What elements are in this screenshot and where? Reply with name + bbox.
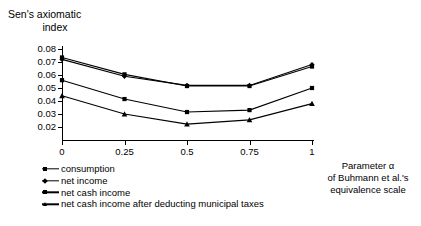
x-axis-caption-line2: of Buhmann et al.'s [316, 172, 420, 184]
x-axis-tick [312, 140, 313, 145]
y-axis-tick-label: 0.03 [38, 109, 57, 119]
data-point [310, 86, 314, 90]
y-axis-tick-label: 0.04 [38, 96, 57, 106]
data-point [247, 108, 251, 112]
legend-marker-icon [42, 187, 59, 199]
plot-area: 0.080.070.060.050.040.030.02 [62, 49, 312, 127]
legend: consumptionnet incomenet cash incomenet … [42, 163, 264, 210]
y-axis-tick-label: 0.07 [38, 57, 57, 67]
y-axis-tick-label: 0.08 [38, 44, 57, 54]
x-axis-tick [62, 140, 63, 145]
x-axis-caption: Parameter α of Buhmann et al.'s equivale… [316, 160, 420, 197]
data-point [185, 110, 189, 114]
data-point [59, 93, 65, 98]
x-axis-tick-label: 0 [59, 147, 64, 157]
x-axis-tick [187, 140, 188, 145]
x-axis-tick-label: 0.25 [115, 147, 134, 157]
legend-marker-icon [42, 163, 59, 175]
chart-figure: Sen's axiomatic index 0.080.070.060.050.… [0, 0, 421, 226]
legend-item: net cash income [42, 187, 264, 199]
legend-marker-icon [42, 198, 59, 210]
legend-item: net cash income after deducting municipa… [42, 198, 264, 210]
x-axis-tick [125, 140, 126, 145]
x-axis-line [62, 140, 314, 141]
legend-item: consumption [42, 163, 264, 175]
data-point [122, 97, 126, 101]
series-4 [59, 93, 315, 127]
x-axis-tick-label: 1 [309, 147, 314, 157]
legend-item-label: consumption [61, 163, 115, 175]
series-line [62, 57, 312, 86]
data-point [309, 101, 315, 106]
y-axis-tick-label: 0.05 [38, 83, 57, 93]
y-axis-tick [58, 127, 62, 128]
chart-title-line1: Sen's axiomatic [8, 8, 102, 21]
legend-item-label: net cash income [61, 187, 130, 199]
chart-title: Sen's axiomatic index [8, 8, 102, 34]
series-2 [59, 57, 314, 88]
y-axis-tick-label: 0.06 [38, 70, 57, 80]
series-line [62, 59, 312, 85]
y-axis-tick-label: 0.02 [38, 122, 57, 132]
x-axis-caption-line1: Parameter α [316, 160, 420, 172]
legend-marker-icon [42, 175, 59, 187]
x-axis-tick [250, 140, 251, 145]
legend-item-label: net income [61, 175, 107, 187]
series-layer [62, 49, 312, 127]
chart-title-line2: index [8, 21, 102, 34]
x-axis-caption-line3: equivalence scale [316, 184, 420, 196]
legend-item-label: net cash income after deducting municipa… [61, 198, 264, 210]
x-axis-tick-label: 0.75 [240, 147, 259, 157]
x-axis-tick-label: 0.5 [180, 147, 193, 157]
data-point [60, 78, 64, 82]
legend-item: net income [42, 175, 264, 187]
